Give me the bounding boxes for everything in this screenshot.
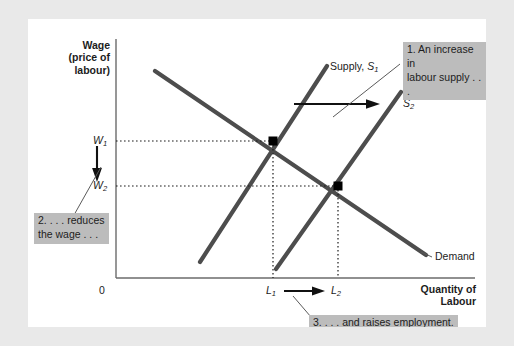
equilibrium-point-1 (269, 137, 278, 146)
l1-tick-label: L1 (266, 284, 276, 299)
w1-symbol: W (93, 134, 103, 146)
supply-s1-label-text: Supply, (330, 60, 367, 72)
equilibrium-point-2 (334, 182, 343, 191)
x-axis-title-line-2: Labour (358, 295, 476, 307)
w2-symbol: W (93, 179, 103, 191)
l2-subscript: 2 (337, 289, 341, 298)
callout-3-leader-line (293, 296, 311, 317)
w1-subscript: 1 (103, 139, 107, 148)
callout-2-reduces-the-wage: 2. . . . reduces the wage . . . (34, 213, 109, 244)
figure-root: Wage (price of labour) Quantity of Labou… (0, 0, 514, 346)
figure-panel: Wage (price of labour) Quantity of Labou… (28, 19, 486, 327)
callout-1-increase-in-labour-supply: 1. An increase in labour supply . . . (403, 42, 486, 100)
supply-curve-s1 (200, 66, 327, 262)
supply-s1-subscript: 1 (374, 65, 378, 74)
callout-3-raises-employment: 3. . . . and raises employment. (309, 315, 458, 327)
x-axis-title-line-1: Quantity of (358, 283, 476, 295)
l1-subscript: 1 (272, 289, 276, 298)
l2-tick-label: L2 (331, 284, 341, 299)
y-axis-title-line-2: (price of (28, 51, 110, 63)
y-axis-title: Wage (price of labour) (28, 39, 110, 76)
y-axis-title-line-3: labour) (28, 64, 110, 76)
origin-label-text: 0 (99, 284, 105, 296)
supply-shift-arrow-head (366, 99, 380, 109)
w2-tick-label: W2 (93, 179, 107, 194)
supply-s1-label: Supply, S1 (330, 60, 378, 75)
supply-s2-subscript: 2 (410, 102, 414, 111)
employment-rise-arrow-head (312, 286, 325, 295)
w1-tick-label: W1 (93, 134, 107, 149)
demand-curve (155, 71, 426, 255)
origin-label: 0 (99, 284, 105, 296)
demand-label-text: Demand (435, 250, 475, 262)
y-axis-title-line-1: Wage (28, 39, 110, 51)
x-axis-title: Quantity of Labour (358, 283, 476, 308)
w2-subscript: 2 (103, 184, 107, 193)
demand-label: Demand (435, 250, 475, 262)
